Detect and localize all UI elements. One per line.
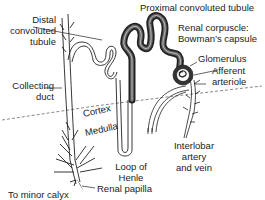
label-to-minor-calyx: To minor calyx — [8, 189, 69, 200]
collecting-duct — [54, 14, 102, 184]
proximal-convoluted-tubule — [124, 16, 184, 100]
label-proximal-convoluted-tubule: Proximal convoluted tubule — [140, 2, 254, 13]
label-renal-papilla: Renal papilla — [97, 183, 152, 194]
label-glomerulus: Glomerulus — [198, 53, 247, 64]
blood-vessels — [148, 80, 200, 138]
renal-corpuscle — [173, 65, 193, 85]
label-afferent-arteriole: Afferent arteriole — [212, 65, 246, 87]
label-renal-corpuscle: Renal corpuscle: Bowman’s capsule — [178, 22, 257, 44]
label-distal-convoluted-tubule: Distal convoluted tubule — [2, 14, 56, 47]
distal-convoluted-tubule — [68, 42, 117, 79]
nephron-diagram: Proximal convoluted tubule Distal convol… — [0, 0, 265, 200]
label-loop-of-henle: Loop of Henle — [112, 161, 150, 183]
label-collecting-duct: Collecting duct — [2, 80, 54, 102]
label-interlobar-artery-vein: Interlobar artery and vein — [170, 140, 218, 173]
